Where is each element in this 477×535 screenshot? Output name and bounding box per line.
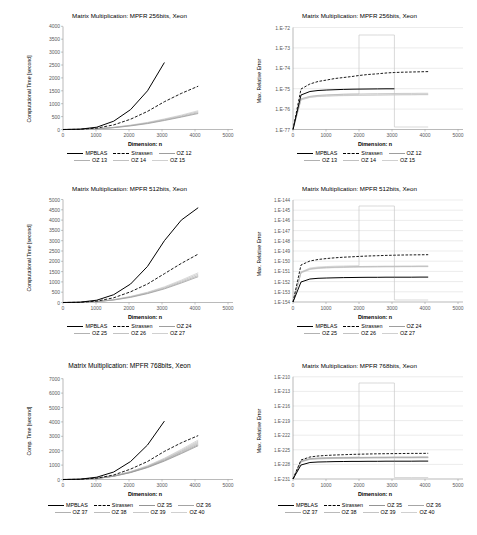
svg-text:0: 0 bbox=[292, 305, 295, 311]
gridlines bbox=[293, 377, 463, 465]
x-axis-label: Dimension: n bbox=[128, 491, 162, 497]
legend-swatch-strassen bbox=[94, 505, 110, 506]
legend-swatch-oz15 bbox=[382, 160, 398, 161]
svg-text:1000: 1000 bbox=[49, 462, 60, 468]
legend-item: MPBLAS bbox=[67, 323, 107, 330]
svg-text:5000: 5000 bbox=[452, 132, 463, 138]
svg-text:1000: 1000 bbox=[320, 482, 331, 488]
legend-swatch-oz37 bbox=[55, 512, 71, 513]
svg-text:0: 0 bbox=[62, 305, 65, 311]
svg-text:2500: 2500 bbox=[49, 62, 60, 68]
svg-text:3500: 3500 bbox=[49, 36, 60, 42]
panel-title: Matrix Multiplication: MPFR 256bits, Xeo… bbox=[22, 12, 237, 19]
svg-text:1000: 1000 bbox=[90, 305, 101, 311]
svg-text:0: 0 bbox=[292, 482, 295, 488]
line-chart-mpfr512-time: Computational Time [second] 05001000 150… bbox=[22, 192, 237, 322]
series-oz39 bbox=[63, 441, 198, 479]
legend-item: OZ 39 bbox=[363, 509, 396, 516]
legend-swatch-oz39 bbox=[363, 512, 379, 513]
legend-swatch-oz13 bbox=[304, 160, 320, 161]
svg-text:3000: 3000 bbox=[49, 433, 60, 439]
legend-item: MPBLAS bbox=[48, 502, 88, 509]
svg-text:1000: 1000 bbox=[49, 279, 60, 285]
svg-text:1000: 1000 bbox=[320, 305, 331, 311]
plot-area: Max. Relative Error 1.E-77 1.E-76 1.E-75… bbox=[252, 19, 467, 149]
plot-area: Max. Relative Error 1.E-1541.E-1531.E-15… bbox=[252, 192, 467, 322]
legend-item: MPBLAS bbox=[278, 502, 318, 509]
x-axis-label: Dimension: n bbox=[128, 314, 162, 320]
svg-text:4000: 4000 bbox=[419, 482, 430, 488]
y-axis-label: Computational Time [second] bbox=[26, 55, 32, 123]
legend-swatch-oz26 bbox=[113, 333, 129, 334]
plot-area: Computational Time [second] 0 500 1000 1… bbox=[22, 19, 237, 149]
y-axis-label: Max. Relative Error bbox=[256, 59, 262, 104]
panel-title: Matrix Multiplication: MPFR 768bits, Xeo… bbox=[22, 362, 237, 369]
series-mpblas bbox=[293, 277, 428, 302]
x-tick-marks bbox=[293, 130, 458, 132]
panel-title: Matrix Multiplication: MPFR 512bits, Xeo… bbox=[22, 185, 237, 192]
legend-item: OZ 26 bbox=[343, 330, 376, 337]
legend-item: Strassen bbox=[113, 323, 152, 330]
legend-swatch-oz36 bbox=[178, 505, 194, 506]
line-chart-mpfr768-error: Max. Relative Error 1.E-2311.E-2281.E-22… bbox=[252, 369, 467, 501]
svg-text:500: 500 bbox=[52, 289, 61, 295]
x-axis-label: Dimension: n bbox=[358, 491, 392, 497]
y-tick-labels: 1.E-1541.E-1531.E-152 1.E-1511.E-1501.E-… bbox=[274, 198, 291, 305]
legend-swatch-oz27 bbox=[152, 333, 168, 334]
svg-text:1.E-74: 1.E-74 bbox=[275, 65, 290, 71]
legend-item: OZ 37 bbox=[55, 509, 88, 516]
svg-text:1.E-225: 1.E-225 bbox=[274, 448, 291, 453]
series-oz14 bbox=[63, 112, 198, 130]
y-axis-label: Max. Relative Error bbox=[256, 409, 262, 454]
legend-swatch-oz38 bbox=[94, 512, 110, 513]
svg-text:0: 0 bbox=[57, 127, 60, 133]
legend-item: OZ 12 bbox=[159, 150, 192, 157]
legend-item: Strassen bbox=[94, 502, 133, 509]
panel-mpfr256-error: Matrix Multiplication: MPFR 256bits, Xeo… bbox=[252, 12, 467, 164]
legend-swatch-oz27 bbox=[382, 333, 398, 334]
y-tick-labels: 0 500 1000 1500 2000 2500 3000 3500 4000 bbox=[49, 23, 60, 132]
svg-text:1.E-146: 1.E-146 bbox=[274, 218, 291, 223]
legend-item: OZ 39 bbox=[133, 509, 166, 516]
series-oz27 bbox=[293, 267, 428, 302]
legend-swatch-oz39 bbox=[133, 512, 149, 513]
panel-mpfr768-time: Matrix Multiplication: MPFR 768bits, Xeo… bbox=[22, 362, 237, 516]
series-oz36 bbox=[293, 457, 428, 479]
svg-text:6000: 6000 bbox=[49, 390, 60, 396]
svg-text:4000: 4000 bbox=[419, 305, 430, 311]
svg-text:5000: 5000 bbox=[222, 132, 233, 138]
legend-panel6: MPBLAS Strassen OZ 35 OZ 36 OZ 37 OZ 38 … bbox=[252, 502, 467, 516]
svg-text:3000: 3000 bbox=[49, 49, 60, 55]
figure-page: Matrix Multiplication: MPFR 256bits, Xeo… bbox=[0, 0, 477, 535]
legend-swatch-strassen bbox=[113, 153, 129, 154]
svg-text:1.E-150: 1.E-150 bbox=[274, 259, 291, 264]
series-oz37 bbox=[293, 457, 428, 479]
legend-item: Strassen bbox=[113, 150, 152, 157]
panel-mpfr512-time: Matrix Multiplication: MPFR 512bits, Xeo… bbox=[22, 185, 237, 337]
legend-item: OZ 38 bbox=[324, 509, 357, 516]
legend-swatch-oz35 bbox=[139, 505, 155, 506]
svg-text:2000: 2000 bbox=[123, 132, 134, 138]
legend-item: OZ 26 bbox=[113, 330, 146, 337]
svg-text:2500: 2500 bbox=[49, 248, 60, 254]
series-oz13 bbox=[63, 113, 198, 130]
series-mpblas bbox=[63, 63, 164, 130]
svg-text:3500: 3500 bbox=[49, 227, 60, 233]
legend-item: OZ 25 bbox=[304, 330, 337, 337]
svg-text:1.E-153: 1.E-153 bbox=[274, 290, 291, 295]
x-tick-labels: 010002000 300040005000 bbox=[62, 305, 234, 311]
svg-text:1.E-228: 1.E-228 bbox=[274, 462, 291, 467]
svg-text:2000: 2000 bbox=[49, 258, 60, 264]
series-strassen bbox=[63, 86, 198, 129]
svg-text:1.E-231: 1.E-231 bbox=[274, 477, 291, 482]
plot-area: Max. Relative Error 1.E-2311.E-2281.E-22… bbox=[252, 369, 467, 501]
svg-text:3000: 3000 bbox=[386, 305, 397, 311]
panel-mpfr512-error: Matrix Multiplication: MPFR 512bits, Xeo… bbox=[252, 185, 467, 337]
svg-text:1.E-73: 1.E-73 bbox=[275, 45, 290, 51]
svg-text:4000: 4000 bbox=[49, 217, 60, 223]
legend-item: OZ 24 bbox=[389, 323, 422, 330]
legend-swatch-strassen bbox=[343, 326, 359, 327]
legend-panel3: MPBLAS Strassen OZ 24 OZ 25 OZ 26 OZ 27 bbox=[22, 323, 237, 337]
legend-item: OZ 27 bbox=[152, 330, 185, 337]
svg-text:4000: 4000 bbox=[189, 132, 200, 138]
